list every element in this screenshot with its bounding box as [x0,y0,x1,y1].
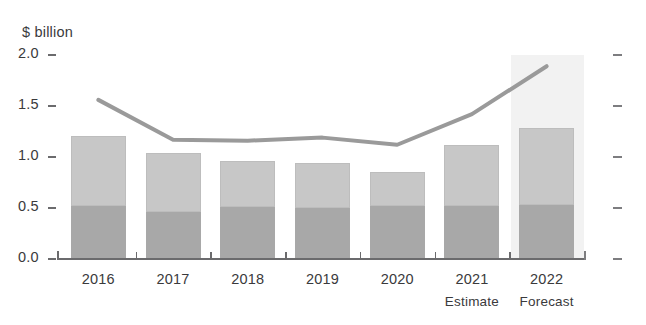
x-axis-tick-mark [360,252,362,259]
y-axis-tick-mark [48,54,56,56]
y-axis-right-tick-mark [613,207,622,209]
x-axis-tick-mark [136,252,138,259]
bar-group-2020[interactable] [370,172,425,259]
y-axis-tick-label: 1.0 [18,147,54,163]
y-axis-title: $ billion [22,24,73,40]
y-axis-tick-label: 0.5 [18,198,54,214]
bar-segment-lower[interactable] [370,206,425,259]
chart-container: $ billion 0.00.51.01.52.0 20162017201820… [0,0,646,325]
plot-area [61,55,584,259]
x-axis-tick-mark [285,252,287,259]
bar-group-2021[interactable] [444,145,499,259]
y-axis-tick-label: 0.0 [18,249,54,265]
x-axis-label-2018: 2018 [208,271,288,287]
bar-group-2016[interactable] [71,136,126,259]
bar-segment-upper[interactable] [295,163,350,208]
y-axis-tick-label: 2.0 [18,45,54,61]
bar-segment-lower[interactable] [444,206,499,259]
bar-segment-upper[interactable] [444,145,499,206]
y-axis-tick-mark [48,258,56,260]
y-axis-right-tick-mark [613,105,622,107]
x-axis-label-2022: 2022 [507,271,587,287]
x-axis-label-2019: 2019 [283,271,363,287]
y-axis-right-tick-mark [613,258,622,260]
y-axis-tick-mark [48,207,56,209]
x-axis-right-cap [584,251,586,260]
x-axis-tick-mark [509,252,511,259]
x-axis-tick-mark [210,252,212,259]
bar-segment-upper[interactable] [220,161,275,207]
bar-group-2018[interactable] [220,161,275,259]
bar-group-2022[interactable] [519,128,574,259]
bar-segment-lower[interactable] [146,212,201,259]
y-axis-right-tick-mark [613,54,622,56]
bar-group-2019[interactable] [295,163,350,259]
x-axis-tick-mark [435,252,437,259]
y-axis-tick-mark [48,105,56,107]
y-axis-tick-label: 1.5 [18,96,54,112]
bar-segment-upper[interactable] [146,153,201,212]
bar-segment-lower[interactable] [71,206,126,259]
bar-segment-upper[interactable] [519,128,574,205]
y-axis-right-tick-mark [613,156,622,158]
x-axis-label-2016: 2016 [58,271,138,287]
bar-segment-lower[interactable] [295,208,350,259]
x-axis-label-2020: 2020 [357,271,437,287]
bar-segment-upper[interactable] [370,172,425,206]
bar-segment-lower[interactable] [519,205,574,259]
bar-group-2017[interactable] [146,153,201,259]
bar-segment-lower[interactable] [220,207,275,259]
bar-segment-upper[interactable] [71,136,126,206]
y-axis-tick-mark [48,156,56,158]
x-axis-label-2017: 2017 [133,271,213,287]
x-axis-label-2021: 2021 [432,271,512,287]
x-axis-left-cap [57,251,59,260]
x-axis-sublabel-2022: Forecast [502,294,592,309]
